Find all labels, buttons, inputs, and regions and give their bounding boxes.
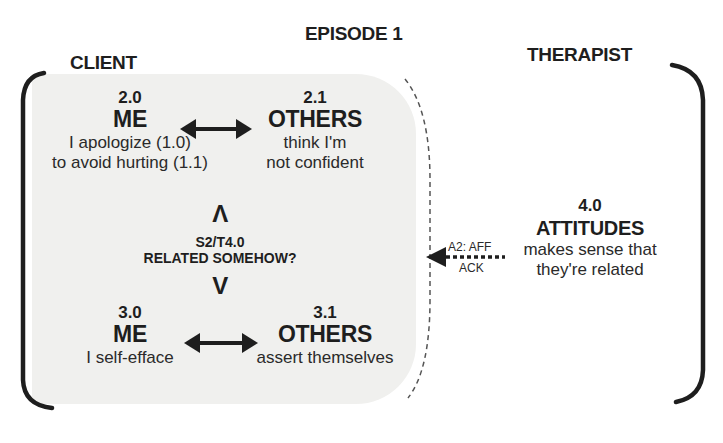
node-number: 4.0 [505, 196, 675, 216]
node-number: 3.0 [60, 303, 200, 323]
client-label: CLIENT [70, 52, 137, 74]
node-line: not confident [245, 153, 385, 173]
node-heading: OTHERS [245, 321, 405, 348]
node-line: assert themselves [245, 348, 405, 368]
node-line: I self-efface [60, 348, 200, 368]
node-line: makes sense that [505, 240, 675, 260]
node-line: to avoid hurting (1.1) [30, 153, 230, 173]
node-4-0-attitudes: 4.0 ATTITUDES makes sense that they're r… [505, 196, 675, 280]
therapist-right-bracket [672, 65, 703, 402]
dashed-boundary [405, 79, 430, 398]
response-label-line1: A2: AFF [448, 240, 491, 254]
link-question: RELATED SOMEHOW? [130, 250, 310, 266]
node-line: I apologize (1.0) [30, 133, 230, 153]
down-chevron-icon: V [130, 274, 310, 298]
relation-link: Λ S2/T4.0 RELATED SOMEHOW? V [130, 202, 310, 298]
episode-title: EPISODE 1 [305, 23, 403, 45]
response-label-line2: ACK [459, 261, 484, 275]
node-3-1-others: 3.1 OTHERS assert themselves [245, 303, 405, 368]
node-number: 2.0 [30, 88, 230, 108]
node-heading: ME [60, 321, 200, 348]
node-line: they're related [505, 260, 675, 280]
node-line: think I'm [245, 133, 385, 153]
node-number: 3.1 [245, 303, 405, 323]
node-heading: OTHERS [245, 106, 385, 133]
node-2-1-others: 2.1 OTHERS think I'm not confident [245, 88, 385, 173]
therapist-label: THERAPIST [527, 44, 632, 66]
node-number: 2.1 [245, 88, 385, 108]
link-code: S2/T4.0 [130, 234, 310, 250]
node-heading: ATTITUDES [505, 217, 675, 240]
up-chevron-icon: Λ [130, 202, 310, 226]
node-2-0-me: 2.0 ME I apologize (1.0) to avoid hurtin… [30, 88, 230, 173]
node-3-0-me: 3.0 ME I self-efface [60, 303, 200, 368]
node-heading: ME [30, 106, 230, 133]
